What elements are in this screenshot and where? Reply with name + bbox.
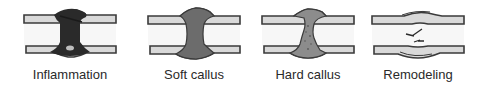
stage-remodeling: Remodeling bbox=[368, 0, 468, 96]
stage-label: Hard callus bbox=[258, 67, 358, 82]
stage-inflammation: Inflammation bbox=[20, 0, 120, 96]
stage-label: Inflammation bbox=[20, 67, 120, 82]
bone-soft-callus-illustration bbox=[144, 0, 244, 66]
stage-hard-callus: Hard callus bbox=[258, 0, 358, 96]
bone-hard-callus-illustration bbox=[258, 0, 358, 66]
stage-label: Soft callus bbox=[144, 67, 244, 82]
stage-label: Remodeling bbox=[368, 67, 468, 82]
bone-remodeling-illustration bbox=[368, 0, 468, 66]
stage-soft-callus: Soft callus bbox=[144, 0, 244, 96]
bone-inflammation-illustration bbox=[20, 0, 120, 66]
